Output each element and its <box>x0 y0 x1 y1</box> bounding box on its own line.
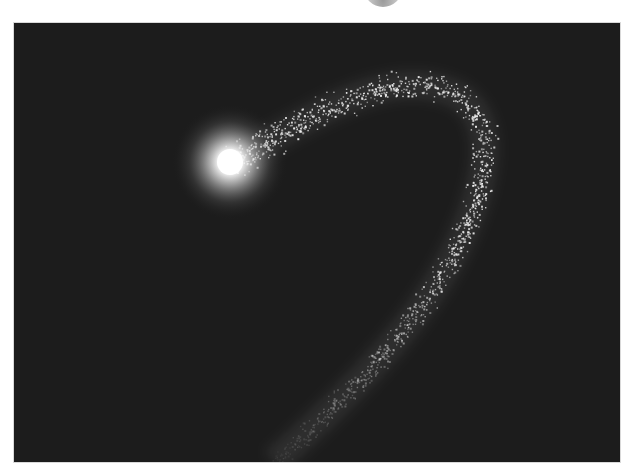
comet-photo <box>14 23 620 462</box>
top-decorative-tab <box>364 0 402 7</box>
comet-head-core <box>217 149 243 175</box>
comet-illustration <box>14 23 620 462</box>
